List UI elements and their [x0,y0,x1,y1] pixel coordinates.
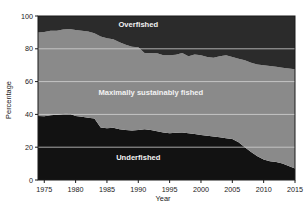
x-tick-label-1980: 1980 [68,185,84,194]
x-tick-label-1990: 1990 [130,185,146,194]
y-tick-label-20: 20 [25,143,33,152]
x-axis-title: Year [156,194,171,203]
x-tick-label-2005: 2005 [224,185,240,194]
x-tick-label-2000: 2000 [193,185,209,194]
fish-stock-status-chart: 020406080100 197519801985199019952000200… [0,0,307,206]
x-tick-label-1985: 1985 [99,185,115,194]
x-tick-label-2010: 2010 [256,185,272,194]
band-label-underfished: Underfished [116,153,161,162]
band-label-overfished: Overfished [118,20,158,29]
y-axis-title: Percentage [4,81,13,119]
y-tick-label-40: 40 [25,110,33,119]
band-label-maximally-sustainably-fished: Maximally sustainably fished [98,88,203,97]
stacked-area-chart-figure: 020406080100 197519801985199019952000200… [0,0,307,206]
y-tick-label-0: 0 [29,176,33,185]
y-tick-label-60: 60 [25,77,33,86]
x-tick-label-1995: 1995 [162,185,178,194]
x-tick-label-2015: 2015 [287,185,303,194]
y-tick-label-80: 80 [25,44,33,53]
y-tick-label-100: 100 [21,12,33,21]
plot-area [38,16,295,180]
x-tick-label-1975: 1975 [36,185,52,194]
